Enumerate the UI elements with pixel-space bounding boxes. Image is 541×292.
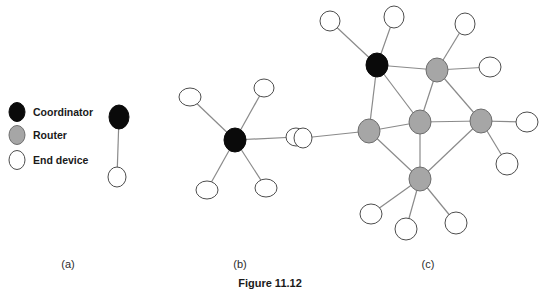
node-coordinator (366, 53, 388, 77)
node-router (409, 167, 431, 191)
legend-item-end-device: End device (9, 151, 89, 170)
node-end-device (496, 153, 518, 175)
legend-item-coordinator: Coordinator (9, 103, 93, 122)
panel-c-mesh (294, 6, 538, 240)
coordinator-swatch-icon (9, 103, 25, 122)
panel-a-point-to-point (108, 105, 129, 187)
node-coordinator (109, 105, 129, 129)
node-router (426, 58, 448, 82)
node-end-device (294, 128, 312, 148)
node-end-device (384, 6, 404, 28)
panel-b-nodes (179, 79, 306, 199)
node-end-device (455, 13, 475, 35)
node-end-device (445, 212, 467, 234)
topology-diagram: Coordinator Router End device (0, 0, 541, 292)
panel-captions: (a) (b) (c) (61, 258, 434, 270)
node-end-device (320, 11, 340, 31)
node-end-device (360, 204, 382, 224)
legend-label-end-device: End device (33, 154, 89, 166)
node-end-device (255, 179, 277, 197)
node-end-device (254, 79, 274, 97)
node-end-device (108, 167, 126, 187)
node-end-device (196, 181, 218, 199)
node-router (470, 109, 492, 133)
legend-item-router: Router (9, 126, 67, 145)
legend-label-router: Router (33, 129, 67, 141)
panel-b-star (179, 79, 306, 199)
node-end-device (516, 112, 538, 132)
panel-caption-c: (c) (422, 258, 435, 270)
router-swatch-icon (9, 126, 25, 145)
legend: Coordinator Router End device (9, 103, 93, 170)
node-coordinator (224, 128, 246, 152)
node-end-device (395, 218, 417, 240)
node-router (409, 110, 431, 134)
figure-container: Coordinator Router End device (0, 0, 541, 292)
node-router (358, 119, 380, 143)
node-end-device (179, 88, 201, 106)
panel-caption-b: (b) (233, 258, 246, 270)
legend-label-coordinator: Coordinator (33, 106, 93, 118)
edge-mesh-15 (420, 121, 481, 179)
panel-caption-a: (a) (61, 258, 74, 270)
figure-caption: Figure 11.12 (238, 277, 302, 289)
panel-c-nodes (294, 6, 538, 240)
node-end-device (479, 57, 501, 77)
end-device-swatch-icon (9, 151, 25, 170)
